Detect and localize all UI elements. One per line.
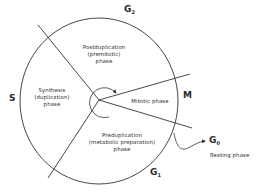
m-letter: M xyxy=(183,90,192,100)
g1-subscript: 1 xyxy=(157,172,160,178)
g0-exit-arrow-icon xyxy=(174,133,205,149)
g0-phase-description: Resting phase xyxy=(210,152,249,159)
g2-label: G2 xyxy=(124,4,135,16)
m-phase-description: Mitotic phase xyxy=(125,98,175,105)
g1-name-line1: Preduplication xyxy=(86,132,158,139)
cycle-direction-arrow-icon xyxy=(90,88,116,118)
m-label: M xyxy=(183,90,192,102)
g2-name-line1: Postduplication xyxy=(78,44,130,51)
g0-label: G0 xyxy=(209,135,220,147)
g0-name: Resting phase xyxy=(210,152,249,158)
s-label: S xyxy=(9,93,15,105)
s-name-line2: (duplication) xyxy=(28,94,76,101)
g2-name-line3: phase xyxy=(78,58,130,65)
s-phase-description: Synthesis (duplication) phase xyxy=(28,87,76,108)
g2-subscript: 2 xyxy=(131,9,134,15)
s-name-line3: phase xyxy=(28,101,76,108)
g1-name-line2: (metabolic preparation) xyxy=(86,139,158,146)
g2-name-line2: (premitotic) xyxy=(78,51,130,58)
divider-g2-m xyxy=(99,74,190,100)
g1-phase-description: Preduplication (metabolic preparation) p… xyxy=(86,132,158,153)
g1-name-line3: phase xyxy=(86,146,158,153)
g1-label: G1 xyxy=(150,167,161,179)
g0-subscript: 0 xyxy=(216,140,219,146)
g2-phase-description: Postduplication (premitotic) phase xyxy=(78,44,130,65)
m-name: Mitotic phase xyxy=(131,98,168,104)
s-letter: S xyxy=(9,93,15,103)
s-name-line1: Synthesis xyxy=(28,87,76,94)
